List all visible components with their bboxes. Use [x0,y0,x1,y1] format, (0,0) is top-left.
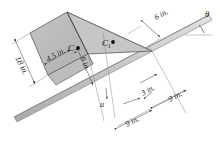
engineering-figure: 18 in. 4.5 in. 9 in. 6 in. 3 in. 9 in. 9… [0,0,220,155]
centroid-c2-subscript: 2 [74,48,77,54]
centroid-c1-subscript: 1 [108,43,111,49]
figure-background [0,0,220,155]
theta-label: θ [205,9,209,19]
u-axis-label: u [100,100,104,109]
figure-canvas: 18 in. 4.5 in. 9 in. 6 in. 3 in. 9 in. 9… [0,0,220,155]
